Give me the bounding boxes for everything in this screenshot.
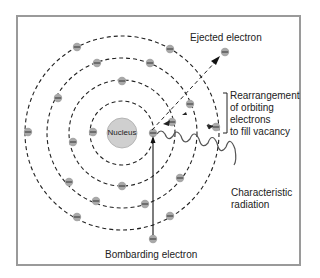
rearrangement-label-3: electrons xyxy=(230,114,271,126)
rearrangement-label-1: Rearrangement xyxy=(230,90,299,102)
ejected-path xyxy=(152,60,217,130)
bombarding-electron-label: Bombarding electron xyxy=(105,249,197,261)
characteristic-label-2: radiation xyxy=(231,199,269,211)
ejected-electron-label: Ejected electron xyxy=(190,32,262,44)
bombarding-electron xyxy=(149,235,157,243)
rearrangement-label-4: to fill vacancy xyxy=(230,126,290,138)
atom-diagram xyxy=(0,0,320,278)
characteristic-label-1: Characteristic xyxy=(231,187,292,199)
ejected-electron xyxy=(221,48,229,56)
nucleus-label: Nucleus xyxy=(108,127,137,139)
rearrangement-label-2: of orbiting xyxy=(230,102,274,114)
